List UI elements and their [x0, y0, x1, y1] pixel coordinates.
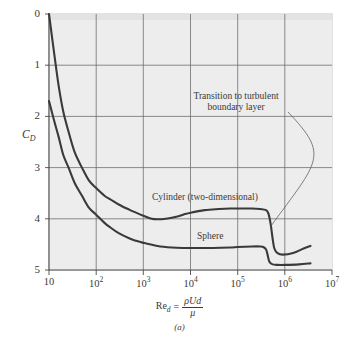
x-axis-title-numerator: ρUd	[182, 296, 203, 308]
cylinder-curve-label: Cylinder (two-dimensional)	[152, 192, 258, 203]
sphere-curve-label: Sphere	[197, 231, 223, 242]
x-axis-title-equals: =	[174, 301, 180, 312]
x-tick-label: 106	[271, 276, 299, 289]
y-tick-label: 3	[24, 161, 40, 173]
x-axis-title-denominator: μ	[188, 308, 197, 319]
y-tick-label: 5	[24, 263, 40, 275]
curve-sphere	[49, 101, 311, 265]
x-axis-title-symbol: Red	[156, 300, 171, 314]
x-tick-label: 104	[177, 276, 205, 289]
panel-identifier: (a)	[0, 322, 359, 332]
y-tick-label: 1	[24, 58, 40, 70]
x-tick-label: 10	[35, 276, 63, 288]
transition-annotation-line2: boundary layer	[207, 102, 264, 112]
x-tick-label: 103	[129, 276, 157, 289]
y-tick-label: 2	[24, 109, 40, 121]
axis-ticks	[45, 14, 332, 275]
x-tick-label: 105	[224, 276, 252, 289]
x-tick-label: 107	[318, 276, 346, 289]
x-axis-title: Red = ρUd μ	[0, 296, 359, 318]
y-axis-title-symbol: C	[22, 128, 30, 140]
gridlines	[49, 14, 332, 270]
x-axis-title-fraction: ρUd μ	[182, 296, 203, 318]
x-tick-label: 102	[82, 276, 110, 289]
drag-coefficient-figure: CD 543210 10102103104105106107 Red = ρUd…	[0, 0, 359, 345]
y-tick-label: 4	[24, 212, 40, 224]
plot-canvas	[0, 0, 359, 345]
y-axis-title-subscript: D	[30, 134, 36, 143]
transition-annotation: Transition to turbulent boundary layer	[172, 91, 300, 112]
y-tick-label: 0	[24, 7, 40, 19]
y-axis-title: CD	[22, 128, 35, 144]
annotation-leader-line	[271, 112, 314, 227]
transition-annotation-line1: Transition to turbulent	[193, 91, 278, 101]
